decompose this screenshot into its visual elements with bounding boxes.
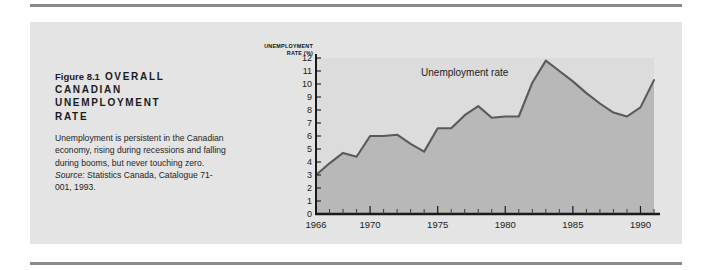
- figure-panel: Figure 8.1OVERALL CANADIAN UNEMPLOYMENT …: [30, 22, 682, 244]
- y-tick-label: 6: [307, 131, 312, 141]
- x-tick-label: 1966: [305, 219, 326, 230]
- y-tick-label: 8: [307, 105, 312, 115]
- top-rule: [30, 4, 682, 7]
- y-axis-title-line-1: UNEMPLOYMENT: [264, 43, 313, 49]
- y-tick-label: 5: [307, 144, 312, 154]
- series-annotation: Unemployment rate: [421, 67, 509, 78]
- x-tick-label: 1980: [495, 219, 516, 230]
- caption-source-label: Source:: [55, 170, 85, 180]
- y-tick-label: 2: [307, 183, 312, 193]
- y-tick-label: 4: [307, 157, 312, 167]
- bottom-rule: [30, 262, 682, 265]
- y-axis-title: UNEMPLOYMENT RATE (%): [264, 43, 313, 56]
- y-axis-title-line-2: RATE (%): [287, 50, 313, 56]
- x-axis-tick-labels: 196619701975198019851990: [305, 219, 651, 230]
- chart-svg: 0123456789101112 19661970197519801985199…: [190, 28, 670, 244]
- y-tick-label: 3: [307, 170, 312, 180]
- y-tick-label: 11: [303, 66, 312, 76]
- figure-page: Figure 8.1OVERALL CANADIAN UNEMPLOYMENT …: [0, 0, 712, 270]
- x-tick-label: 1990: [630, 219, 651, 230]
- x-tick-label: 1985: [562, 219, 583, 230]
- x-tick-label: 1975: [427, 219, 448, 230]
- y-tick-label: 0: [307, 209, 312, 219]
- figure-title-line-4: RATE: [55, 111, 88, 122]
- figure-title-line-1: OVERALL: [105, 71, 165, 82]
- y-tick-label: 9: [307, 92, 312, 102]
- figure-title-line-3: UNEMPLOYMENT: [55, 97, 160, 108]
- figure-title-line-2: CANADIAN: [55, 84, 122, 95]
- y-axis-tick-labels: 0123456789101112: [302, 53, 312, 219]
- x-tick-label: 1970: [360, 219, 381, 230]
- y-tick-label: 7: [307, 118, 312, 128]
- y-tick-label: 10: [302, 79, 312, 89]
- unemployment-rate-chart: 0123456789101112 19661970197519801985199…: [190, 28, 670, 244]
- series-label-unemployment-rate: Unemployment rate: [421, 67, 509, 78]
- figure-number: Figure 8.1: [55, 71, 100, 82]
- y-tick-label: 1: [307, 196, 312, 206]
